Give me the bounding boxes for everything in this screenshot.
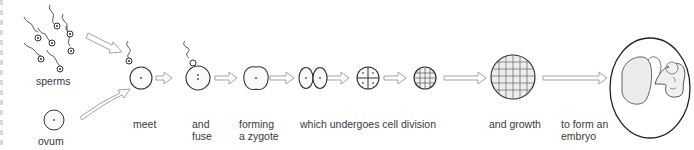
label-fuse-line1: and bbox=[192, 118, 212, 130]
label-sperms: sperms bbox=[36, 75, 70, 87]
arrow-icon bbox=[80, 89, 130, 120]
sperm-cluster-icon bbox=[24, 5, 70, 66]
meeting-gametes-icon bbox=[126, 41, 152, 89]
morula-icon bbox=[414, 66, 436, 90]
label-embryo-line2: embryo bbox=[561, 130, 608, 142]
arrow-icon bbox=[86, 33, 122, 53]
fusing-cell-icon bbox=[184, 41, 210, 90]
label-zygote: forming a zygote bbox=[239, 118, 279, 142]
zygote-icon bbox=[244, 67, 268, 90]
two-cell-stage-icon bbox=[299, 68, 327, 89]
label-cell-division: which undergoes cell division bbox=[300, 118, 436, 130]
label-embryo-line1: to form an bbox=[561, 118, 608, 130]
growing-embryo-ball-icon bbox=[490, 54, 536, 100]
fertilisation-diagram: sperms ovum meet and fuse forming a zygo… bbox=[0, 0, 694, 150]
label-ovum: ovum bbox=[38, 135, 64, 147]
label-embryo: to form an embryo bbox=[561, 118, 608, 142]
four-cell-stage-icon bbox=[357, 67, 379, 89]
label-zygote-line1: forming bbox=[239, 118, 279, 130]
label-meet: meet bbox=[133, 118, 156, 130]
ovum-icon bbox=[44, 110, 64, 130]
label-fuse: and fuse bbox=[192, 118, 212, 142]
embryo-icon bbox=[610, 38, 690, 138]
label-growth: and growth bbox=[489, 118, 541, 130]
process-arrows bbox=[156, 72, 607, 84]
label-zygote-line2: a zygote bbox=[239, 130, 279, 142]
label-fuse-line2: fuse bbox=[192, 130, 212, 142]
